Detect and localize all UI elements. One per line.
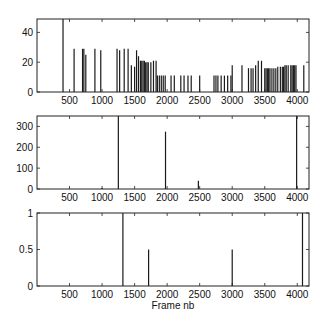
x-tick-label: 1500	[123, 192, 146, 203]
x-tick-label: 2000	[156, 192, 179, 203]
y-tick-label: 0	[27, 281, 33, 292]
y-tick-label: 0.5	[19, 244, 33, 255]
x-tick-label: 2000	[156, 95, 179, 106]
x-tick-label: 1500	[123, 289, 146, 300]
chart-figure: 5001000150020002500300035004000020405001…	[0, 0, 326, 326]
x-tick-label: 3500	[254, 192, 277, 203]
x-tick-label: 3500	[254, 95, 277, 106]
chart-panel-1: 500100015002000250030003500400002040	[22, 19, 309, 106]
y-tick-label: 100	[16, 163, 33, 174]
x-tick-label: 3500	[254, 289, 277, 300]
x-tick-label: 500	[61, 289, 78, 300]
x-tick-label: 2500	[189, 192, 212, 203]
x-tick-label: 500	[61, 95, 78, 106]
x-tick-label: 3000	[221, 95, 244, 106]
y-tick-label: 0	[27, 87, 33, 98]
x-tick-label: 1000	[91, 289, 114, 300]
x-tick-label: 2500	[189, 95, 212, 106]
chart-svg: 5001000150020002500300035004000020405001…	[0, 0, 326, 326]
axes-box	[37, 116, 309, 189]
x-tick-label: 2500	[189, 289, 212, 300]
x-tick-label: 500	[61, 192, 78, 203]
x-tick-label: 1000	[91, 95, 114, 106]
x-tick-label: 4000	[286, 95, 309, 106]
x-tick-label: 1500	[123, 95, 146, 106]
x-tick-label: 3000	[221, 289, 244, 300]
y-tick-label: 20	[22, 57, 34, 68]
x-tick-label: 1000	[91, 192, 114, 203]
x-tick-label: 4000	[286, 289, 309, 300]
chart-panel-2: 5001000150020002500300035004000010020030…	[16, 116, 309, 203]
y-tick-label: 200	[16, 142, 33, 153]
bar-series	[102, 116, 297, 189]
bar-series	[123, 213, 303, 286]
x-axis-label: Frame nb	[152, 300, 195, 311]
bar-series	[63, 19, 304, 92]
y-tick-label: 0	[27, 184, 33, 195]
y-tick-label: 1	[27, 208, 33, 219]
x-tick-label: 4000	[286, 192, 309, 203]
x-tick-label: 2000	[156, 289, 179, 300]
chart-panel-3: 500100015002000250030003500400000.51Fram…	[19, 208, 309, 312]
axes-box	[37, 213, 309, 286]
y-tick-label: 300	[16, 121, 33, 132]
x-tick-label: 3000	[221, 192, 244, 203]
y-tick-label: 40	[22, 27, 34, 38]
